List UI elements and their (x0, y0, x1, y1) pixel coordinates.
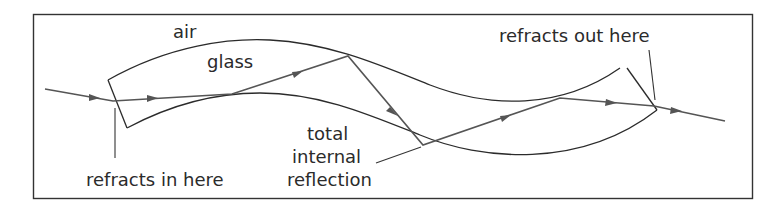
fibre-top-edge (108, 40, 620, 102)
fibre-optic-diagram: air glass refracts in here refracts out … (0, 0, 774, 207)
arrow-icon (292, 71, 303, 78)
label-tir-total: total (307, 123, 348, 144)
label-tir-reflection: reflection (287, 169, 372, 190)
label-tir-internal: internal (292, 146, 361, 167)
arrow-icon (605, 99, 617, 106)
label-refracts-in: refracts in here (86, 169, 224, 190)
label-glass: glass (207, 51, 253, 72)
leader-tir (376, 147, 421, 163)
fibre-bottom-edge (127, 93, 657, 155)
arrow-icon (89, 94, 100, 101)
label-refracts-out: refracts out here (499, 25, 650, 46)
label-air: air (173, 21, 197, 42)
leader-refracts-out (649, 50, 655, 100)
arrow-icon (500, 115, 511, 122)
arrow-icon (670, 107, 682, 114)
fibre-left-end (108, 80, 127, 128)
arrow-icon (147, 95, 158, 102)
